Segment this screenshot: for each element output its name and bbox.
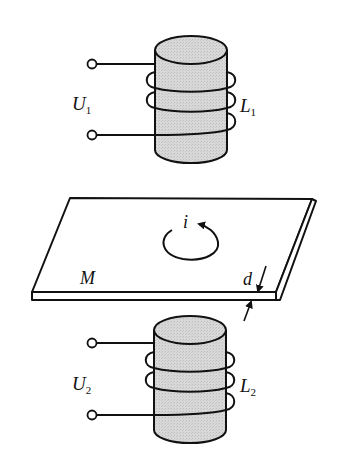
label-u2: U2	[72, 373, 91, 396]
metal-plate	[32, 198, 316, 300]
lower-terminal-bottom	[88, 411, 97, 420]
label-l2: L2	[239, 375, 256, 398]
lower-coil-assembly: U2 L2	[72, 316, 256, 443]
plate-top-face	[32, 198, 312, 292]
lower-core	[154, 316, 226, 443]
plate-front-edge	[32, 292, 276, 300]
upper-core	[155, 36, 227, 163]
lower-leads	[88, 339, 155, 420]
label-d: d	[243, 269, 253, 289]
eddy-current-diagram: U1 L1 i M d	[0, 0, 344, 469]
label-l1: L1	[239, 95, 256, 118]
upper-leads	[88, 60, 156, 140]
label-u1: U1	[72, 93, 91, 116]
upper-coil-assembly: U1 L1	[72, 36, 256, 163]
upper-terminal-top	[88, 60, 97, 69]
label-m: M	[79, 268, 96, 288]
lower-terminal-top	[88, 339, 97, 348]
label-i: i	[183, 212, 188, 232]
upper-terminal-bottom	[88, 131, 97, 140]
